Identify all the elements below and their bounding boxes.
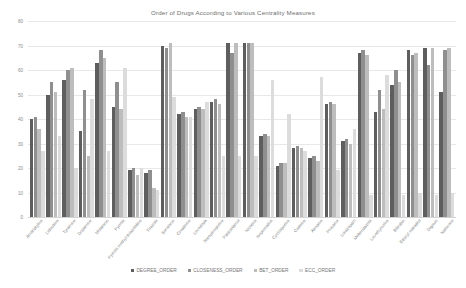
y-axis-tick-label: 20 xyxy=(18,166,23,171)
bar xyxy=(189,117,193,217)
x-axis-tick-label: Dopamine xyxy=(77,218,93,236)
y-axis-tick-label: 30 xyxy=(18,141,23,146)
x-axis-tick-label: Tyramine xyxy=(61,218,76,235)
bar xyxy=(172,97,176,217)
bar xyxy=(451,193,455,218)
x-axis-tick-label: Amitriptyline xyxy=(25,218,44,239)
bar-group xyxy=(340,21,356,217)
x-axis-tick-label: Lidocaine xyxy=(44,218,60,235)
y-axis-tick-label: 0 xyxy=(20,215,23,220)
legend-swatch xyxy=(131,269,135,273)
x-axis-tick-label: Cyclosporine xyxy=(271,218,291,240)
x-axis-tick-label: Serotonin xyxy=(160,218,176,235)
x-axis-tick-label: Digoxin xyxy=(426,218,439,232)
bar-group xyxy=(62,21,78,217)
bar xyxy=(418,193,422,218)
bar xyxy=(123,68,127,217)
y-axis: 01020304050607080 xyxy=(0,21,26,217)
bar-group xyxy=(242,21,258,217)
bar-group xyxy=(439,21,455,217)
bar-group xyxy=(406,21,422,217)
bar xyxy=(353,129,357,217)
bar-group xyxy=(291,21,307,217)
y-axis-tick-label: 10 xyxy=(18,190,23,195)
bar xyxy=(156,190,160,217)
x-axis-tick-label: Melatonin xyxy=(94,218,110,235)
y-axis-tick-label: 50 xyxy=(18,92,23,97)
bar xyxy=(222,156,226,217)
bar xyxy=(238,156,242,217)
x-axis-tick-label: Codeine xyxy=(293,218,307,233)
legend-swatch xyxy=(188,269,192,273)
bar-group xyxy=(160,21,176,217)
bar-series-layer xyxy=(28,21,456,217)
bar-group xyxy=(324,21,340,217)
bar xyxy=(369,195,373,217)
bar-group xyxy=(78,21,94,217)
y-axis-tick-label: 70 xyxy=(18,43,23,48)
bar-group xyxy=(111,21,127,217)
bar xyxy=(336,170,340,217)
bar-group xyxy=(275,21,291,217)
y-axis-tick-label: 60 xyxy=(18,68,23,73)
bar-group xyxy=(127,21,143,217)
chart-title: Order of Drugs According to Various Cent… xyxy=(0,9,466,16)
bar xyxy=(58,136,62,217)
legend-swatch xyxy=(299,269,303,273)
x-axis-tick-label: Naloxone xyxy=(440,218,456,235)
bar xyxy=(431,48,435,217)
bar xyxy=(320,77,324,217)
chart-legend: DEGREE_ORDERCLOSENESS_ORDERBET_ORDERECC_… xyxy=(0,268,466,273)
y-axis-tick-label: 40 xyxy=(18,117,23,122)
bar-group xyxy=(29,21,45,217)
legend-label: BET_ORDER xyxy=(259,268,288,273)
x-axis-tick-label: Triazole xyxy=(145,218,159,233)
bar xyxy=(74,168,78,217)
bar-group xyxy=(45,21,61,217)
bar xyxy=(254,156,258,217)
bar-group xyxy=(422,21,438,217)
bar xyxy=(271,80,275,217)
legend-label: DEGREE_ORDER xyxy=(136,268,176,273)
legend-item[interactable]: DEGREE_ORDER xyxy=(131,268,177,273)
bar-group xyxy=(258,21,274,217)
x-axis-tick-label: Pyrrole xyxy=(113,218,126,232)
bar-group xyxy=(357,21,373,217)
bar-group xyxy=(226,21,242,217)
bar xyxy=(303,151,307,217)
bar-group xyxy=(193,21,209,217)
bar xyxy=(435,195,439,217)
bar-group xyxy=(373,21,389,217)
bar-group xyxy=(308,21,324,217)
x-axis-tick-label: Bilirubin xyxy=(392,218,406,233)
x-axis: AmitriptylineLidocaineTyramineDopamineMe… xyxy=(28,218,456,264)
bar xyxy=(385,75,389,217)
x-axis-tick-label: Creatinine xyxy=(175,218,191,236)
x-axis-tick-label: Atropine xyxy=(309,218,323,233)
x-axis-tick-label: Procaine xyxy=(325,218,340,234)
legend-label: ECC_ORDER xyxy=(305,268,335,273)
bar xyxy=(402,195,406,217)
x-axis-tick-label: Nicotine xyxy=(244,218,258,233)
legend-item[interactable]: CLOSENESS_ORDER xyxy=(188,268,243,273)
y-axis-tick-label: 80 xyxy=(18,19,23,24)
legend-item[interactable]: BET_ORDER xyxy=(254,268,289,273)
chart-container: Order of Drugs According to Various Cent… xyxy=(0,0,466,288)
legend-item[interactable]: ECC_ORDER xyxy=(299,268,335,273)
bar xyxy=(140,168,144,217)
x-axis-tick-label: Pyrrole methyl-thiazolidine xyxy=(106,218,142,260)
bar-group xyxy=(144,21,160,217)
bar-group xyxy=(209,21,225,217)
x-axis-tick-label: Levodopa xyxy=(192,218,208,236)
bar xyxy=(90,99,94,217)
legend-label: CLOSENESS_ORDER xyxy=(193,268,242,273)
bar-group xyxy=(95,21,111,217)
bar xyxy=(365,55,369,217)
bar xyxy=(107,151,111,217)
plot-area xyxy=(28,21,456,217)
bar xyxy=(287,114,291,217)
bar xyxy=(41,151,45,217)
legend-swatch xyxy=(254,269,258,273)
bar-group xyxy=(177,21,193,217)
bar-group xyxy=(390,21,406,217)
